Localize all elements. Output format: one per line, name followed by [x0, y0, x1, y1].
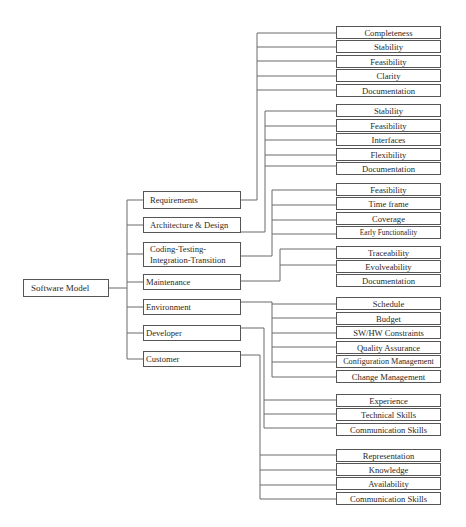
leaf-label: Coverage [372, 214, 405, 224]
root-label: Software Model [31, 283, 89, 293]
leaf-architecture-stability: Stability [336, 104, 441, 117]
leaf-customer-representation: Representation [336, 449, 441, 462]
leaf-maintenance-traceability: Traceability [336, 246, 441, 259]
leaf-label: Stability [374, 106, 403, 116]
leaf-label: Configuration Management [343, 357, 434, 367]
leaf-requirements-documentation: Documentation [336, 84, 441, 97]
category-architecture-design: Architecture & Design [143, 217, 241, 233]
leaf-label: Representation [363, 451, 415, 461]
leaf-label: Schedule [373, 299, 405, 309]
leaf-requirements-stability: Stability [336, 40, 441, 53]
category-environment: Environment [143, 299, 241, 315]
leaf-label: Feasibility [370, 185, 406, 195]
leaf-label: Traceability [368, 248, 409, 258]
leaf-coding-time-frame: Time frame [336, 197, 441, 210]
leaf-label: Communication Skills [350, 494, 427, 504]
leaf-environment-change-management: Change Management [336, 370, 441, 383]
leaf-requirements-clarity: Clarity [336, 69, 441, 82]
leaf-label: Experience [369, 396, 408, 406]
leaf-label: Technical Skills [361, 410, 416, 420]
category-label: Architecture & Design [150, 220, 228, 230]
leaf-architecture-documentation: Documentation [336, 162, 441, 175]
leaf-customer-knowledge: Knowledge [336, 463, 441, 476]
leaf-developer-communication-skills: Communication Skills [336, 423, 441, 436]
leaf-label: Budget [376, 314, 401, 324]
leaf-label: Knowledge [369, 465, 409, 475]
leaf-label: Clarity [377, 71, 401, 81]
category-maintenance: Maintenance [143, 274, 241, 290]
category-requirements: Requirements [143, 191, 241, 209]
leaf-architecture-interfaces: Interfaces [336, 133, 441, 146]
leaf-environment-quality-assurance: Quality Assurance [336, 341, 441, 354]
leaf-coding-coverage: Coverage [336, 212, 441, 225]
leaf-label: Flexibility [371, 150, 407, 160]
leaf-customer-availability: Availability [336, 477, 441, 490]
leaf-requirements-completeness: Completeness [336, 26, 441, 39]
leaf-label: Feasibility [370, 121, 406, 131]
leaf-requirements-feasibility: Feasibility [336, 55, 441, 68]
leaf-label: Completeness [364, 28, 412, 38]
leaf-environment-schedule: Schedule [336, 297, 441, 310]
leaf-label: Early Functionality [360, 228, 417, 238]
root-node-software-model: Software Model [23, 279, 109, 297]
leaf-label: Change Management [352, 372, 425, 382]
leaf-label: Stability [374, 42, 403, 52]
leaf-environment-budget: Budget [336, 312, 441, 325]
leaf-architecture-flexibility: Flexibility [336, 148, 441, 161]
leaf-label: Documentation [362, 164, 415, 174]
leaf-developer-experience: Experience [336, 394, 441, 407]
category-label: Customer [146, 354, 179, 364]
leaf-label: Documentation [362, 86, 415, 96]
leaf-label: Evolveability [365, 262, 411, 272]
leaf-label: Documentation [362, 276, 415, 286]
leaf-label: Availability [368, 479, 408, 489]
leaf-environment-sw-hw-constraints: SW/HW Constraints [336, 326, 441, 339]
leaf-maintenance-documentation: Documentation [336, 274, 441, 287]
leaf-label: Interfaces [372, 135, 406, 145]
leaf-maintenance-evolveability: Evolveability [336, 260, 441, 273]
category-label: Environment [146, 302, 191, 312]
category-customer: Customer [143, 351, 241, 367]
leaf-developer-technical-skills: Technical Skills [336, 408, 441, 421]
leaf-coding-early-functionality: Early Functionality [336, 226, 441, 239]
leaf-label: Time frame [368, 199, 408, 209]
category-coding-testing-integration-transition: Coding-Testing-Integration-Transition [143, 242, 241, 267]
leaf-label: Quality Assurance [357, 343, 420, 353]
leaf-coding-feasibility: Feasibility [336, 183, 441, 196]
leaf-label: SW/HW Constraints [353, 328, 424, 338]
leaf-label: Communication Skills [350, 425, 427, 435]
leaf-customer-communication-skills: Communication Skills [336, 492, 441, 505]
leaf-label: Feasibility [370, 57, 406, 67]
category-label: Requirements [150, 195, 198, 205]
leaf-architecture-feasibility: Feasibility [336, 119, 441, 132]
category-label: Coding-Testing-Integration-Transition [150, 244, 240, 266]
leaf-environment-configuration-management: Configuration Management [336, 355, 441, 368]
category-label: Maintenance [146, 277, 190, 287]
category-developer: Developer [143, 325, 241, 341]
category-label: Developer [146, 328, 182, 338]
